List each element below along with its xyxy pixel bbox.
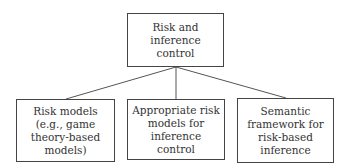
root-node-label: Risk and inference control [132, 21, 219, 60]
connector-line-left [66, 67, 176, 99]
child-node-semantic-framework: Semantic framework for risk-based infere… [237, 98, 334, 163]
connector-line-right [176, 67, 286, 98]
child-node-risk-models: Risk models (e.g., game theory-based mod… [16, 99, 115, 162]
root-node: Risk and inference control [127, 13, 224, 67]
child-node-appropriate-risk-models: Appropriate risk models for inference co… [127, 99, 225, 160]
child-node-label: Appropriate risk models for inference co… [132, 104, 220, 156]
child-node-label: Semantic framework for risk-based infere… [242, 105, 329, 157]
child-node-label: Risk models (e.g., game theory-based mod… [21, 105, 110, 157]
